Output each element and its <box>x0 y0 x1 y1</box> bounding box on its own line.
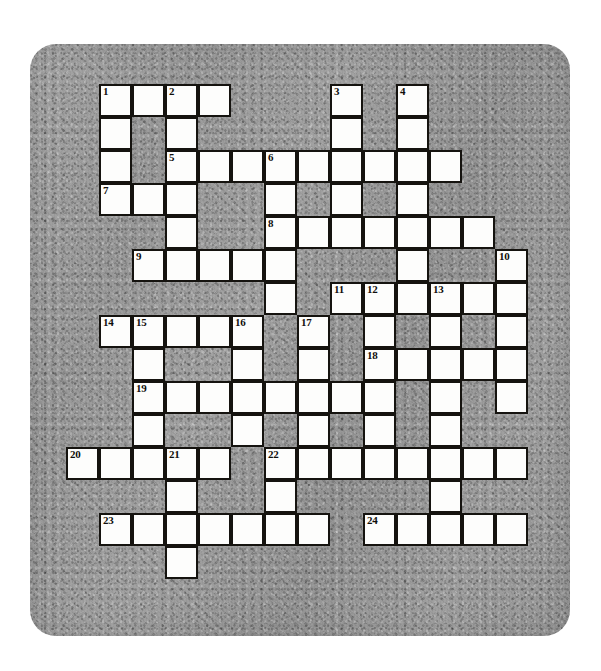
crossword-cell[interactable] <box>264 381 297 414</box>
crossword-cell[interactable] <box>165 216 198 249</box>
crossword-cell[interactable] <box>231 348 264 381</box>
crossword-cell[interactable] <box>165 546 198 579</box>
crossword-grid[interactable]: 123456789101112131415161718192021222324 <box>0 0 601 671</box>
crossword-cell[interactable] <box>198 249 231 282</box>
crossword-cell[interactable] <box>132 348 165 381</box>
crossword-cell-numbered-8[interactable]: 8 <box>264 216 297 249</box>
crossword-cell-numbered-6[interactable]: 6 <box>264 150 297 183</box>
crossword-cell[interactable] <box>429 414 462 447</box>
crossword-cell[interactable] <box>165 183 198 216</box>
crossword-cell[interactable] <box>165 117 198 150</box>
crossword-cell[interactable] <box>198 150 231 183</box>
crossword-cell-numbered-7[interactable]: 7 <box>99 183 132 216</box>
crossword-cell[interactable] <box>297 513 330 546</box>
crossword-cell[interactable] <box>231 150 264 183</box>
crossword-cell[interactable] <box>132 447 165 480</box>
crossword-cell-numbered-11[interactable]: 11 <box>330 282 363 315</box>
crossword-cell[interactable] <box>264 249 297 282</box>
crossword-cell-numbered-9[interactable]: 9 <box>132 249 165 282</box>
crossword-cell[interactable] <box>231 249 264 282</box>
crossword-cell[interactable] <box>264 480 297 513</box>
crossword-cell[interactable] <box>462 513 495 546</box>
crossword-cell[interactable] <box>99 447 132 480</box>
crossword-cell[interactable] <box>462 282 495 315</box>
crossword-cell-numbered-15[interactable]: 15 <box>132 315 165 348</box>
crossword-cell[interactable] <box>429 513 462 546</box>
crossword-cell-numbered-23[interactable]: 23 <box>99 513 132 546</box>
crossword-cell[interactable] <box>132 414 165 447</box>
crossword-cell[interactable] <box>132 84 165 117</box>
crossword-cell[interactable] <box>297 447 330 480</box>
crossword-cell-numbered-18[interactable]: 18 <box>363 348 396 381</box>
crossword-cell[interactable] <box>99 150 132 183</box>
crossword-cell[interactable] <box>495 513 528 546</box>
crossword-cell[interactable] <box>330 381 363 414</box>
crossword-cell[interactable] <box>363 414 396 447</box>
crossword-cell-numbered-2[interactable]: 2 <box>165 84 198 117</box>
crossword-cell[interactable] <box>429 216 462 249</box>
crossword-cell[interactable] <box>165 381 198 414</box>
crossword-cell[interactable] <box>198 84 231 117</box>
crossword-cell-numbered-5[interactable]: 5 <box>165 150 198 183</box>
crossword-cell[interactable] <box>396 216 429 249</box>
crossword-cell-numbered-12[interactable]: 12 <box>363 282 396 315</box>
crossword-cell[interactable] <box>396 183 429 216</box>
crossword-cell[interactable] <box>330 216 363 249</box>
crossword-cell[interactable] <box>363 447 396 480</box>
crossword-cell[interactable] <box>165 315 198 348</box>
crossword-cell-numbered-21[interactable]: 21 <box>165 447 198 480</box>
crossword-cell[interactable] <box>495 315 528 348</box>
crossword-cell[interactable] <box>264 282 297 315</box>
crossword-cell-numbered-3[interactable]: 3 <box>330 84 363 117</box>
crossword-cell[interactable] <box>231 414 264 447</box>
crossword-cell[interactable] <box>396 117 429 150</box>
crossword-cell[interactable] <box>396 447 429 480</box>
crossword-cell[interactable] <box>363 315 396 348</box>
crossword-cell[interactable] <box>396 348 429 381</box>
crossword-cell[interactable] <box>198 315 231 348</box>
crossword-cell[interactable] <box>264 183 297 216</box>
crossword-cell[interactable] <box>330 150 363 183</box>
crossword-cell-numbered-14[interactable]: 14 <box>99 315 132 348</box>
crossword-cell[interactable] <box>495 381 528 414</box>
crossword-cell[interactable] <box>297 150 330 183</box>
crossword-cell[interactable] <box>429 150 462 183</box>
crossword-cell[interactable] <box>231 381 264 414</box>
crossword-cell-numbered-17[interactable]: 17 <box>297 315 330 348</box>
crossword-cell-numbered-4[interactable]: 4 <box>396 84 429 117</box>
crossword-cell[interactable] <box>165 249 198 282</box>
crossword-cell[interactable] <box>495 348 528 381</box>
crossword-cell-numbered-10[interactable]: 10 <box>495 249 528 282</box>
crossword-cell[interactable] <box>330 183 363 216</box>
crossword-cell-numbered-22[interactable]: 22 <box>264 447 297 480</box>
crossword-cell[interactable] <box>264 513 297 546</box>
crossword-cell[interactable] <box>132 183 165 216</box>
crossword-cell[interactable] <box>99 117 132 150</box>
crossword-cell[interactable] <box>363 381 396 414</box>
crossword-cell[interactable] <box>231 513 264 546</box>
crossword-cell-numbered-19[interactable]: 19 <box>132 381 165 414</box>
crossword-cell[interactable] <box>297 381 330 414</box>
crossword-cell[interactable] <box>132 513 165 546</box>
crossword-cell-numbered-24[interactable]: 24 <box>363 513 396 546</box>
crossword-cell[interactable] <box>429 315 462 348</box>
crossword-cell[interactable] <box>462 348 495 381</box>
crossword-cell[interactable] <box>297 414 330 447</box>
crossword-cell[interactable] <box>165 480 198 513</box>
crossword-cell-numbered-1[interactable]: 1 <box>99 84 132 117</box>
crossword-cell[interactable] <box>363 216 396 249</box>
crossword-cell[interactable] <box>396 282 429 315</box>
crossword-cell[interactable] <box>297 348 330 381</box>
crossword-cell[interactable] <box>396 513 429 546</box>
crossword-cell[interactable] <box>462 447 495 480</box>
crossword-cell[interactable] <box>396 249 429 282</box>
crossword-cell[interactable] <box>429 348 462 381</box>
crossword-cell[interactable] <box>363 150 396 183</box>
crossword-cell-numbered-16[interactable]: 16 <box>231 315 264 348</box>
crossword-cell[interactable] <box>429 447 462 480</box>
crossword-cell[interactable] <box>198 513 231 546</box>
crossword-cell-numbered-13[interactable]: 13 <box>429 282 462 315</box>
crossword-cell[interactable] <box>429 381 462 414</box>
crossword-cell[interactable] <box>429 480 462 513</box>
crossword-cell[interactable] <box>198 447 231 480</box>
